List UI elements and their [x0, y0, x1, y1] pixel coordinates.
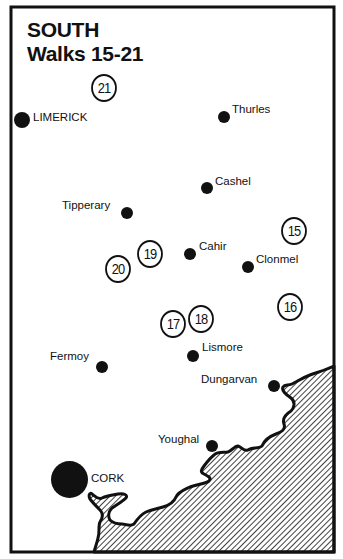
town-marker-cashel[interactable]: [201, 182, 213, 194]
town-label-tipperary: Tipperary: [62, 199, 110, 211]
walk-number: 18: [195, 311, 207, 327]
town-marker-clonmel[interactable]: [242, 261, 254, 273]
town-label-clonmel: Clonmel: [256, 253, 298, 265]
town-label-limerick: LIMERICK: [33, 111, 87, 123]
town-label-youghal: Youghal: [158, 433, 199, 445]
walk-number: 19: [144, 246, 156, 262]
town-marker-youghal[interactable]: [206, 440, 218, 452]
town-label-cork: CORK: [91, 472, 124, 484]
town-label-lismore: Lismore: [202, 341, 243, 353]
walk-marker-21[interactable]: 21: [91, 74, 117, 102]
town-marker-cahir[interactable]: [184, 248, 196, 260]
walk-number: 15: [288, 223, 300, 239]
town-marker-limerick[interactable]: [14, 112, 30, 128]
map: SOUTH Walks 15-21 LIMERICK Thurles Cashe…: [0, 0, 343, 559]
walks-range-title: Walks 15-21: [27, 42, 143, 66]
town-marker-fermoy[interactable]: [96, 361, 108, 373]
walk-marker-20[interactable]: 20: [105, 255, 131, 283]
walk-number: 21: [98, 80, 110, 96]
walk-number: 17: [167, 316, 179, 332]
walk-number: 20: [112, 261, 124, 277]
walk-number: 16: [284, 299, 296, 315]
walk-marker-15[interactable]: 15: [281, 217, 307, 245]
town-marker-cork[interactable]: [51, 461, 88, 498]
walk-marker-19[interactable]: 19: [137, 240, 163, 268]
town-label-cahir: Cahir: [199, 240, 226, 252]
town-marker-lismore[interactable]: [187, 350, 199, 362]
town-marker-thurles[interactable]: [218, 111, 230, 123]
town-marker-tipperary[interactable]: [121, 207, 133, 219]
town-label-fermoy: Fermoy: [50, 350, 89, 362]
walk-marker-18[interactable]: 18: [188, 305, 214, 333]
town-label-cashel: Cashel: [215, 175, 251, 187]
walk-marker-17[interactable]: 17: [160, 310, 186, 338]
town-label-dungarvan: Dungarvan: [201, 373, 257, 385]
sea-area: [89, 366, 334, 552]
region-title: SOUTH: [27, 18, 99, 42]
walk-marker-16[interactable]: 16: [277, 293, 303, 321]
town-marker-dungarvan[interactable]: [268, 380, 280, 392]
town-label-thurles: Thurles: [232, 103, 270, 115]
